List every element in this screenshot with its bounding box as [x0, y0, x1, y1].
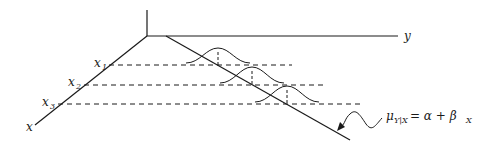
svg-text:x: x — [94, 56, 101, 70]
y-axis-label: y — [403, 29, 411, 43]
svg-text:3: 3 — [50, 102, 55, 111]
regression-diagram: y x x 1 x 2 x 3 μ Y|X = α + β X — [0, 0, 485, 155]
svg-text:x: x — [42, 95, 49, 109]
x3-label: x 3 — [42, 95, 55, 111]
regression-equation: μ Y|X = α + β X — [386, 109, 472, 125]
normal-curve-2 — [220, 67, 284, 83]
x-axis — [35, 36, 147, 125]
svg-text:1: 1 — [102, 63, 107, 72]
x1-label: x 1 — [94, 56, 107, 72]
svg-text:= α + β: = α + β — [410, 109, 457, 123]
svg-text:2: 2 — [75, 82, 81, 91]
svg-text:Y|X: Y|X — [394, 116, 408, 125]
normal-curve-1 — [186, 48, 250, 63]
x-axis-label: x — [26, 120, 33, 134]
svg-text:X: X — [465, 116, 472, 125]
normal-curve-3 — [255, 86, 319, 102]
svg-text:x: x — [68, 75, 75, 89]
svg-text:μ: μ — [386, 109, 394, 123]
x2-label: x 2 — [68, 75, 81, 91]
regression-line — [166, 36, 350, 140]
annotation-pointer — [341, 112, 382, 128]
